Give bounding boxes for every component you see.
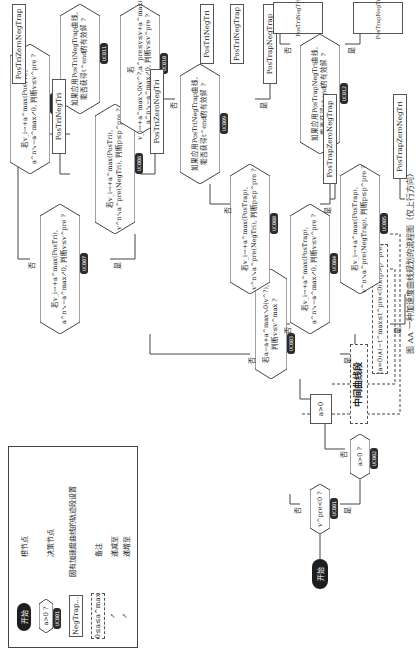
edge-yes-3: 是 xyxy=(342,357,352,364)
edge-yes-1: 是 xyxy=(342,507,352,514)
d4-line2: a^n↘−a^max↗0, 判断v≤v^pre ? xyxy=(310,214,319,324)
legend-decision-symbol: a>0 ? xyxy=(39,599,53,633)
badge-uc011: UC011 xyxy=(100,43,108,64)
edge-yes-4: 是 xyxy=(392,327,402,334)
d8-line1: 若v_i→+a^max(PosTrap), xyxy=(241,187,250,271)
badge-uc008: UC008 xyxy=(270,213,278,234)
badge-uc003: UC003 xyxy=(287,333,295,354)
box-a-gt-0: a>0 xyxy=(310,394,332,424)
box-postrapzeronegtrap: PosTrapZeroNegTrap xyxy=(323,94,337,184)
legend-label-note: 备注 xyxy=(93,543,103,557)
start-node[interactable]: 开始 xyxy=(312,559,328,589)
d11-line1: 如果应用PosTriNegTrap曲线, xyxy=(71,12,80,106)
edge-yes-8: 是 xyxy=(322,207,332,214)
legend-label-increase: 递增至 xyxy=(121,536,131,557)
legend-increase-icon: ↗ xyxy=(121,613,129,619)
decision-uc007[interactable]: 若v_i→+a^max(PosTri),a^n↘−a^max↗0, 判断v≤v^… xyxy=(40,204,80,334)
box-postrinegtrap: PosTriNegTrap xyxy=(230,4,244,64)
d10-line1: 若v_i→+a^max↘0(v^?,a^pre≤v≤v+a^max), xyxy=(127,0,145,140)
figure-caption: 图 AA 一种加速度曲线规划的流程图（仅上行方向） xyxy=(404,169,415,354)
edge-no-9: 否 xyxy=(168,102,178,109)
badge-uc005: UC005 xyxy=(380,213,388,234)
d6-line1: 若v_i→+a^max(PosTri), xyxy=(106,130,115,208)
edge-no-2: 否 xyxy=(338,451,348,458)
d9-line1: 如果应用PosTriNegTrap曲线, xyxy=(191,77,200,171)
badge-uc012: UC012 xyxy=(340,83,348,104)
d12-line1: 如果应用PosTrapNegTri曲线, xyxy=(311,47,320,141)
box-postrinegtri-right: PosTriNegTri xyxy=(200,4,214,64)
edge-no-8: 否 xyxy=(222,207,232,214)
legend-start-symbol: 开始 xyxy=(17,603,31,631)
decision-uc009[interactable]: 如果应用PosTriNegTrap曲线,能否获得t^end的有效解 ? xyxy=(180,64,220,184)
box-postrizeronegtri: PosTriZeroNegTri xyxy=(150,69,164,154)
d3-line1: 若a−a+a^max↘0(v^?), xyxy=(262,285,271,363)
edge-yes-12: 是 xyxy=(346,47,356,54)
legend-decision-text: a>0 ? xyxy=(39,599,53,633)
d8-line2: v^n↘a^pre(NegTri), 判断p≤p^pre ? xyxy=(250,168,259,290)
edge-yes-9: 是 xyxy=(258,102,268,109)
legend-note-symbol: 0≤a≤a^max xyxy=(91,593,105,639)
d5-line2: v^n↘a^pre(NegTrap), 判断p≤p^pre ? xyxy=(360,165,369,292)
decision-uc011[interactable]: 如果应用PosTriNegTrap曲线,能否获得t^end的有效解 ? xyxy=(60,4,100,114)
badge-uc006: UC006 xyxy=(135,153,143,174)
box-postrapnegtri: PosTrapNegTri xyxy=(353,2,403,34)
badge-uc007: UC007 xyxy=(80,253,88,274)
legend-label-decision: 决策节点 xyxy=(45,529,55,557)
legend-label-decrease: 递减至 xyxy=(109,536,119,557)
legend-label-root: 根节点 xyxy=(19,536,29,557)
d4-line1: 若v_i→+a^max(PosTrap), xyxy=(301,227,310,311)
d13-line2: a^n↘−a^max↗0, 判断v≤v^pre ? xyxy=(30,54,39,164)
decision-uc008[interactable]: 若v_i→+a^max(PosTrap),v^n↘a^pre(NegTri), … xyxy=(230,164,270,294)
badge-uc002: UC002 xyxy=(370,448,378,469)
decision-v-pre-text: v^pre<0 ? xyxy=(310,484,330,534)
decision-uc005[interactable]: 若v_i→+a^max(PosTrap),v^n↘a^pre(NegTrap),… xyxy=(340,164,380,294)
d7-line1: 若v_i→+a^max(PosTri), xyxy=(51,230,60,308)
legend-box: 开始 根节点 a>0 ? UC001 决策节点 NegTrap... 固有加速度… xyxy=(8,446,138,648)
badge-uc001: UC001 xyxy=(330,498,338,519)
box-postrizeronegtrap: PosTriZeroNegTrap xyxy=(12,4,26,84)
decision-a-positive-text: a>0 ? xyxy=(350,434,370,479)
badge-uc009: UC009 xyxy=(220,113,228,134)
d3-line2: 判断v≤v^max ? xyxy=(271,298,280,350)
edge-no-7: 否 xyxy=(26,262,36,269)
decision-uc004[interactable]: 若v_i→+a^max(PosTrap),a^n↘−a^max↗0, 判断v≤v… xyxy=(290,204,330,334)
d5-line1: 若v_i→+a^max(PosTrap), xyxy=(351,187,360,271)
badge-uc004: UC004 xyxy=(330,253,338,274)
legend-segment-symbol: NegTrap... xyxy=(69,595,83,637)
legend-label-segment: 固有加速度曲线的轨迹段设置 xyxy=(67,457,77,577)
decision-v-pre[interactable]: v^pre<0 ? xyxy=(310,484,330,534)
d7-line2: a^n↘−a^max↗0, 判断v≤v^pre ? xyxy=(60,214,69,324)
edge-no-1: 否 xyxy=(292,507,302,514)
d11-line2: 能否获得t^end的有效解 ? xyxy=(80,18,89,100)
box-postrapzeronegtri: PosTrapZeroNegTri xyxy=(393,94,407,179)
legend-badge: UC001 xyxy=(53,608,61,629)
legend-decrease-icon: ↗ xyxy=(109,613,117,619)
edge-no-3: 否 xyxy=(246,357,256,364)
box-postrinegtri-top: PosTriNegTri xyxy=(52,79,66,154)
decision-a-positive[interactable]: a>0 ? xyxy=(350,434,370,479)
flowchart-canvas: 开始 根节点 a>0 ? UC001 决策节点 NegTrap... 固有加速度… xyxy=(0,0,416,654)
edge-no-12: 否 xyxy=(282,47,292,54)
d9-line2: 能否获得t^end的有效解 ? xyxy=(200,83,209,165)
edge-yes-7: 是 xyxy=(112,262,122,269)
edge-no-4: 否 xyxy=(282,327,292,334)
note-title: 中间曲线段 xyxy=(350,344,368,424)
box-postrinegtri-bottom: PosTriNegTri xyxy=(273,2,323,34)
